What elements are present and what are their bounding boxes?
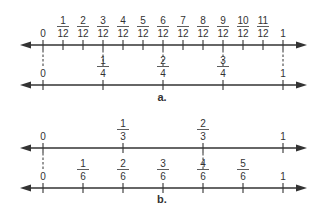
fraction-numerator: 1 — [80, 158, 86, 169]
tick-label: 1 — [280, 131, 286, 142]
arrow-right-icon — [296, 185, 307, 192]
fraction-numerator: 4 — [120, 15, 126, 26]
fraction-numerator: 8 — [200, 15, 206, 26]
fraction-denominator: 12 — [97, 28, 109, 39]
fraction-numerator: 1 — [60, 15, 66, 26]
arrow-left-icon — [20, 82, 31, 89]
fraction-denominator: 12 — [157, 28, 169, 39]
fraction-denominator: 12 — [117, 28, 129, 39]
fraction-numerator: 9 — [220, 15, 226, 26]
fraction-denominator: 12 — [217, 28, 229, 39]
fraction-numerator: 10 — [237, 15, 249, 26]
arrow-left-icon — [20, 42, 31, 49]
fraction-denominator: 4 — [160, 68, 166, 79]
fraction-numerator: 7 — [180, 15, 186, 26]
fraction-denominator: 6 — [200, 171, 206, 182]
fraction-denominator: 6 — [240, 171, 246, 182]
fraction-denominator: 4 — [220, 68, 226, 79]
diagram-canvas: 0112212312412512612712812912101211121014… — [0, 0, 325, 218]
fraction-denominator: 6 — [120, 171, 126, 182]
fraction-denominator: 12 — [257, 28, 269, 39]
arrow-left-icon — [20, 185, 31, 192]
fraction-numerator: 5 — [140, 15, 146, 26]
tick-label: 1 — [280, 171, 286, 182]
fraction-numerator: 6 — [160, 15, 166, 26]
arrow-right-icon — [296, 42, 307, 49]
fraction-numerator: 5 — [240, 158, 246, 169]
fraction-denominator: 4 — [100, 68, 106, 79]
fraction-numerator: 3 — [100, 15, 106, 26]
fraction-denominator: 6 — [80, 171, 86, 182]
fraction-numerator: 1 — [120, 118, 126, 129]
tick-label: 0 — [40, 171, 46, 182]
arrow-right-icon — [296, 145, 307, 152]
fraction-denominator: 3 — [200, 131, 206, 142]
fraction-numerator: 2 — [80, 15, 86, 26]
fraction-numerator: 11 — [258, 15, 269, 26]
fraction-denominator: 6 — [160, 171, 166, 182]
fraction-denominator: 12 — [57, 28, 69, 39]
fraction-denominator: 12 — [177, 28, 189, 39]
tick-label: 0 — [40, 68, 46, 79]
part-label: b. — [157, 193, 167, 205]
fraction-denominator: 12 — [77, 28, 89, 39]
fraction-numerator: 2 — [120, 158, 126, 169]
tick-label: 0 — [40, 131, 46, 142]
tick-label: 0 — [40, 28, 46, 39]
number-line-diagram: 0112212312412512612712812912101211121014… — [0, 0, 325, 218]
tick-label: 1 — [280, 28, 286, 39]
fraction-numerator: 3 — [160, 158, 166, 169]
fraction-numerator: 2 — [200, 118, 206, 129]
arrow-left-icon — [20, 145, 31, 152]
fraction-denominator: 12 — [197, 28, 209, 39]
fraction-denominator: 12 — [137, 28, 149, 39]
fraction-denominator: 3 — [120, 131, 126, 142]
tick-label: 1 — [280, 68, 286, 79]
fraction-denominator: 12 — [237, 28, 249, 39]
arrow-right-icon — [296, 82, 307, 89]
part-label: a. — [157, 91, 166, 103]
